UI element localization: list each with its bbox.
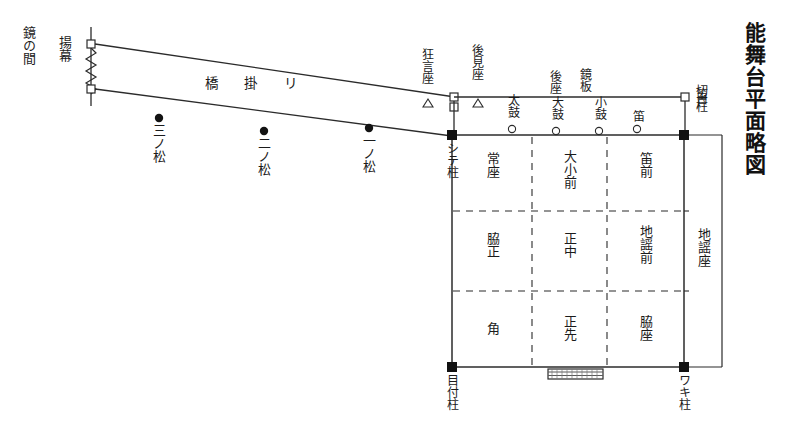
label-pine-2: 二ノ松: [257, 137, 270, 176]
label-cell-fuemae: 笛前: [639, 152, 652, 178]
pine-marker-1: [365, 124, 373, 132]
label-agemaku: 揚幕: [58, 36, 71, 62]
label-kagami-no-ma: 鏡の間: [22, 26, 35, 65]
hashigakari-lower-rail: [95, 89, 452, 136]
waki-bashira-marker: [679, 362, 689, 372]
label-cell-daishomae: 大小前: [563, 150, 576, 189]
otsuzumi-circle-marker: [552, 127, 559, 134]
agemaku-bottom-square: [87, 85, 95, 93]
pine-marker-3: [155, 114, 163, 122]
label-jiutai-za: 地謡座: [697, 228, 710, 267]
label-pine-1: 一ノ松: [362, 134, 375, 173]
label-cell-shosaki: 正先: [563, 315, 576, 341]
label-fue: 笛: [631, 110, 643, 122]
kyogenza-triangle-marker: [423, 99, 433, 107]
noh-stage-floorplan: 能舞台平面略図 鏡の間 揚幕 橋 掛 リ 三ノ松 二ノ松 一ノ松 狂言座 後見座…: [0, 0, 791, 430]
label-fue-bashira: 笛柱: [694, 88, 706, 112]
label-otsuzumi: 大鼓: [550, 96, 562, 120]
label-cell-joza: 常座: [486, 152, 499, 178]
label-kotsuzumi: 小鼓: [593, 96, 605, 120]
fue-circle-marker: [633, 125, 640, 132]
agemaku-top-square: [87, 40, 95, 48]
fue-bashira-marker: [679, 130, 689, 140]
label-cell-sumi: 角: [486, 322, 499, 335]
page-title: 能舞台平面略図: [742, 22, 765, 176]
label-ato-za: 後座: [548, 70, 560, 94]
taiko-circle-marker: [508, 125, 515, 132]
label-cell-wakiza: 脇座: [639, 315, 652, 341]
pine-marker-2: [260, 127, 268, 135]
label-shite-bashira: シテ柱: [445, 142, 457, 178]
label-kagami-ita: 鏡板: [578, 68, 590, 92]
label-cell-jiutaimae: 地謡前: [639, 225, 652, 264]
label-waki-bashira: ワキ柱: [677, 374, 689, 410]
kokenza-triangle-marker: [473, 99, 483, 107]
kirido-square: [681, 93, 689, 101]
label-kyogen-za: 狂言座: [420, 48, 432, 84]
label-pine-3: 三ノ松: [152, 124, 165, 163]
floorplan-drawing: [0, 0, 791, 430]
label-cell-shochu: 正中: [563, 232, 576, 258]
label-cell-wakisho: 脇正: [486, 232, 499, 258]
kizahashi-steps: [548, 369, 603, 379]
metsuke-bashira-marker: [447, 362, 457, 372]
label-metsuke-bashira: 目付柱: [445, 374, 457, 410]
label-koken-za: 後見座: [470, 44, 482, 80]
label-taiko: 太鼓: [506, 94, 518, 118]
shite-bashira-marker: [447, 130, 457, 140]
label-hashigakari: 橋 掛 リ: [205, 72, 308, 92]
kotsuzumi-circle-marker: [595, 127, 602, 134]
